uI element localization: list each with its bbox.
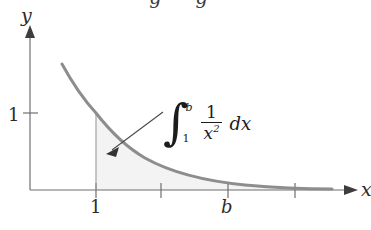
integral-limits: b 1	[189, 100, 200, 146]
y-axis-arrowhead	[25, 25, 35, 38]
integral-upper-limit: b	[186, 101, 193, 114]
fraction-denominator: x2	[201, 123, 223, 142]
tick-label-y-1: 1	[8, 106, 19, 124]
x-axis-arrowhead	[344, 185, 358, 195]
fraction-denominator-base: x	[204, 123, 214, 143]
figure-integral-1-over-x-squared: g g y x 1 1 b ∫	[0, 0, 371, 230]
integral-fraction: 1 x2	[201, 104, 223, 142]
fraction-numerator: 1	[203, 104, 220, 122]
axis-label-x: x	[361, 180, 371, 199]
axis-label-y: y	[21, 6, 32, 25]
integral-differential: dx	[230, 113, 252, 134]
annotation-arrow-line	[112, 112, 163, 150]
fraction-denominator-exponent: 2	[213, 123, 219, 134]
tick-label-x-1: 1	[90, 198, 101, 216]
integral-lower-limit: 1	[183, 132, 190, 145]
integral-annotation: ∫ b 1 1 x2 dx	[163, 98, 251, 148]
integral-sign-group: ∫ b 1	[163, 98, 200, 148]
tick-label-x-b: b	[221, 198, 233, 216]
